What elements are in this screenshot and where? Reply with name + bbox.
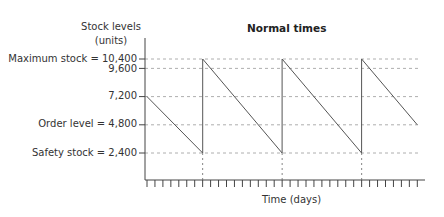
stock-level-chart: Normal times Stock levels (units) Maximu… xyxy=(0,0,444,217)
y-tick-label-order-level: Order level = 4,800 xyxy=(38,118,137,129)
y-axis-label: Stock levels (units) xyxy=(78,20,144,48)
x-axis-label: Time (days) xyxy=(262,194,321,205)
chart-plot-area xyxy=(0,0,444,217)
chart-title: Normal times xyxy=(247,22,326,34)
y-axis-label-line-2: (units) xyxy=(78,34,144,48)
y-axis-label-line-1: Stock levels xyxy=(78,20,144,34)
y-tick-label-7200: 7,200 xyxy=(108,90,137,101)
stock-level-line xyxy=(147,59,417,153)
y-tick-label-9600: 9,600 xyxy=(108,63,137,74)
y-tick-label-safety-stock: Safety stock = 2,400 xyxy=(32,147,137,158)
